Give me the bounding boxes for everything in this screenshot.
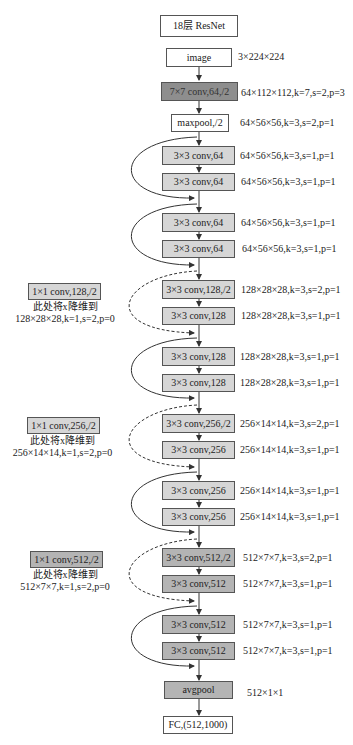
shape-conv512-1: 512×7×7,k=3,s=2,p=1 [243, 552, 333, 563]
layer-conv256-3: 3×3 conv,256 [162, 481, 235, 500]
shape-conv7x7: 64×112×112,k=7,s=2,p=3 [241, 87, 345, 98]
shape-maxpool: 64×56×56,k=3,s=2,p=1 [240, 117, 335, 128]
shape-image: 3×224×224 [238, 51, 284, 62]
shape-conv64-3: 64×56×56,k=3,s=1,p=1 [241, 217, 336, 228]
shape-conv256-1: 256×14×14,k=3,s=2,p=1 [240, 418, 340, 429]
shortcut-conv512: 1×1 conv,512,/2 [30, 551, 103, 568]
shape-conv256-4: 256×14×14,k=3,s=1,p=1 [240, 511, 340, 522]
shape-conv128-1: 128×28×28,k=3,s=2,p=1 [241, 284, 341, 295]
layer-conv512-1: 3×3 conv,512,/2 [162, 548, 235, 567]
shape-conv64-4: 64×56×56,k=3,s=1,p=1 [242, 243, 337, 254]
shortcut-conv256: 1×1 conv,256,/2 [27, 417, 100, 434]
layer-conv512-4: 3×3 conv,512 [162, 642, 235, 660]
diagram-title: 18层 ResNet [160, 15, 238, 37]
layer-avgpool: avgpool [164, 681, 233, 699]
shape-conv512-2: 512×7×7,k=3,s=1,p=1 [243, 578, 333, 589]
shape-conv256-3: 256×14×14,k=3,s=1,p=1 [240, 485, 340, 496]
shortcut-note-128-line2: 128×28×28,k=1,s=2,p=0 [15, 313, 115, 325]
shortcut-conv128: 1×1 conv,128,/2 [28, 283, 101, 300]
layer-conv256-1: 3×3 conv,256,/2 [162, 414, 235, 433]
shape-conv128-3: 128×28×28,k=3,s=1,p=1 [240, 351, 340, 362]
layer-conv256-4: 3×3 conv,256 [162, 508, 235, 526]
shape-conv256-2: 256×14×14,k=3,s=1,p=1 [240, 444, 340, 455]
shape-conv512-3: 512×7×7,k=3,s=1,p=1 [243, 619, 333, 630]
layer-conv128-4: 3×3 conv,128 [162, 374, 235, 392]
shortcut-note-256: 此处将x降维到 256×14×14,k=1,s=2,p=0 [10, 435, 115, 459]
layer-conv64-3: 3×3 conv,64 [162, 213, 235, 232]
shape-conv64-1: 64×56×56,k=3,s=1,p=1 [240, 150, 335, 161]
layer-conv128-2: 3×3 conv,128 [162, 307, 235, 325]
shortcut-note-128-line1: 此处将x降维到 [15, 301, 115, 313]
layer-conv512-2: 3×3 conv,512 [162, 575, 235, 593]
layer-image: image [166, 48, 232, 67]
shortcut-note-256-line1: 此处将x降维到 [10, 435, 115, 447]
shortcut-note-256-line2: 256×14×14,k=1,s=2,p=0 [10, 447, 115, 459]
layer-conv512-3: 3×3 conv,512 [162, 615, 235, 634]
layer-conv128-3: 3×3 conv,128 [162, 347, 235, 366]
shape-conv512-4: 512×7×7,k=3,s=1,p=1 [243, 645, 333, 656]
layer-conv64-4: 3×3 conv,64 [162, 240, 235, 258]
layer-conv64-2: 3×3 conv,64 [162, 173, 235, 191]
layer-conv128-1: 3×3 conv,128,/2 [162, 280, 235, 299]
shortcut-note-512-line2: 512×7×7,k=1,s=2,p=0 [15, 581, 115, 593]
shortcut-note-512-line1: 此处将x降维到 [15, 569, 115, 581]
shape-conv128-4: 128×28×28,k=3,s=1,p=1 [240, 377, 340, 388]
layer-conv64-1: 3×3 conv,64 [162, 146, 235, 165]
shape-conv128-2: 128×28×28,k=3,s=1,p=1 [241, 310, 341, 321]
shortcut-note-128: 此处将x降维到 128×28×28,k=1,s=2,p=0 [15, 301, 115, 325]
layer-maxpool: maxpool,/2 [171, 114, 229, 132]
shortcut-note-512: 此处将x降维到 512×7×7,k=1,s=2,p=0 [15, 569, 115, 593]
layer-fc: FC,(512,1000) [163, 716, 233, 734]
layer-conv256-2: 3×3 conv,256 [162, 441, 235, 459]
shape-avgpool: 512×1×1 [247, 687, 283, 698]
layer-conv7x7: 7×7 conv,64,/2 [161, 82, 238, 101]
shape-conv64-2: 64×56×56,k=3,s=1,p=1 [241, 176, 336, 187]
